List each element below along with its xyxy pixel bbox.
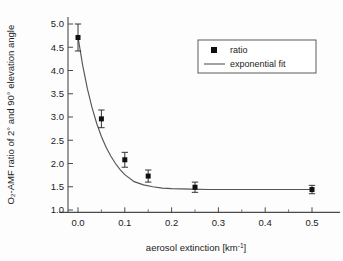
- y-axis-title-text: O₂-AMF ratio of 2° and 90° elevation ang…: [5, 25, 16, 205]
- x-tick-label: 0.5: [305, 217, 318, 228]
- x-tick-label: 0.2: [165, 217, 178, 228]
- x-axis-title-text: aerosol extinction [km-1]: [146, 242, 246, 254]
- x-tick-label: 0.3: [212, 217, 225, 228]
- x-axis-ticks: [78, 207, 312, 212]
- chart-legend: ratio exponential fit: [198, 40, 316, 73]
- y-tick-label: 4.0: [51, 65, 64, 76]
- x-tick-label: 0.4: [259, 217, 272, 228]
- x-axis-tick-labels: 0.00.10.20.30.40.5: [71, 217, 318, 228]
- data-point-marker: [193, 185, 198, 190]
- x-axis-title-main: aerosol extinction [km: [146, 242, 238, 253]
- y-tick-label: 2.0: [51, 158, 64, 169]
- x-tick-label: 0.1: [118, 217, 131, 228]
- chart-canvas: 0.00.10.20.30.40.5 1.01.52.02.53.03.54.0…: [0, 0, 343, 261]
- x-axis-title-suffix: ]: [244, 242, 247, 253]
- x-axis-title: aerosol extinction [km-1]: [146, 242, 246, 254]
- data-point-marker: [310, 187, 315, 192]
- data-point-marker: [146, 174, 151, 179]
- y-tick-label: 3.5: [51, 88, 64, 99]
- data-point-marker: [122, 157, 127, 162]
- data-point-marker: [76, 35, 81, 40]
- chart-figure: 0.00.10.20.30.40.5 1.01.52.02.53.03.54.0…: [0, 0, 343, 261]
- y-axis-tick-labels: 1.01.52.02.53.03.54.04.55.0: [51, 18, 64, 215]
- y-tick-label: 2.5: [51, 135, 64, 146]
- y-tick-label: 3.0: [51, 111, 64, 122]
- data-point-marker: [99, 116, 104, 121]
- y-tick-label: 4.5: [51, 42, 64, 53]
- legend-label-ratio: ratio: [230, 45, 248, 55]
- y-tick-label: 1.0: [51, 204, 64, 215]
- y-axis-ticks: [68, 24, 73, 210]
- x-tick-label: 0.0: [71, 217, 84, 228]
- y-axis-title: O₂-AMF ratio of 2° and 90° elevation ang…: [5, 25, 16, 205]
- legend-label-exponential-fit: exponential fit: [230, 59, 286, 69]
- y-tick-label: 1.5: [51, 181, 64, 192]
- y-tick-label: 5.0: [51, 18, 64, 29]
- legend-square-marker-icon: [211, 47, 217, 53]
